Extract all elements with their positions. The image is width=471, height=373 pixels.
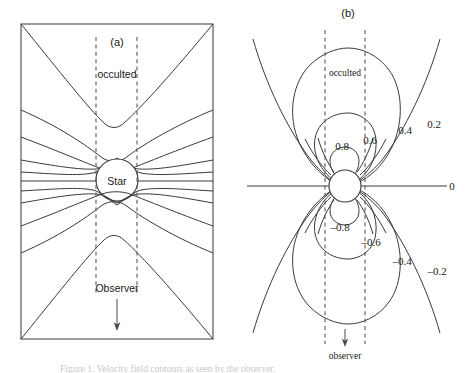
contour-b-0.2-right	[356, 39, 440, 183]
panel-b: (b) occulted observer 0 0.8 0.6 0.4 0.2 …	[247, 7, 455, 361]
contour-b--0.2-left	[253, 189, 334, 333]
figure-container: (a) occulted Star Observer	[0, 0, 471, 373]
panel-a-title: (a)	[110, 36, 123, 48]
contour-b-0.2-left	[253, 39, 334, 183]
panel-b-title: (b)	[341, 7, 354, 19]
panel-b-observer-label: observer	[329, 351, 363, 361]
contour-a-9	[21, 202, 213, 253]
contour-label-0.6: 0.6	[363, 134, 377, 146]
figure-caption: Figure 1. Velocity field contours as see…	[60, 364, 400, 373]
contour-label--0.4: –0.4	[391, 255, 412, 267]
panel-a: (a) occulted Star Observer	[21, 24, 213, 339]
contour-label-0.2: 0.2	[427, 118, 441, 130]
contour-label--0.6: –0.6	[360, 236, 381, 248]
contour-label--0.2: –0.2	[426, 265, 446, 277]
panel-b-occulted-label: occulted	[329, 68, 361, 78]
contour-label-0: 0	[449, 180, 455, 192]
panel-a-occulted-label: occulted	[97, 68, 136, 80]
contour-label-0.8: 0.8	[335, 140, 349, 152]
panel-a-star-label: Star	[107, 175, 127, 187]
star-circle-b	[329, 170, 361, 202]
panel-a-observer-label: Observer	[95, 282, 139, 294]
contour-label--0.8: –0.8	[329, 221, 350, 233]
figure-svg: (a) occulted Star Observer	[0, 0, 471, 373]
contour-a-2	[21, 110, 213, 161]
contour-b--0.4	[293, 189, 401, 324]
contour-label-0.4: 0.4	[398, 124, 412, 136]
